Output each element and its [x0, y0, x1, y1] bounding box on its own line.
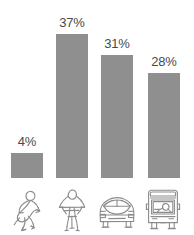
car-icon [96, 191, 138, 233]
bar-value-label-bus: 28% [151, 55, 176, 68]
category-icon-row [0, 180, 194, 235]
category-icon-cell-walking [7, 183, 47, 233]
plot-area: 4% 37% 31% 28% [0, 0, 194, 178]
bar-chart: 4% 37% 31% 28% [0, 0, 194, 235]
bar-value-label-walking: 4% [18, 135, 36, 148]
bus-icon [143, 187, 183, 233]
bicycle-icon [54, 187, 90, 233]
bar-value-label-car: 31% [104, 37, 129, 50]
bar-car[interactable] [101, 55, 133, 178]
bar-cycling[interactable] [56, 34, 88, 178]
bar-group-cycling: 37% [56, 0, 88, 178]
category-icon-cell-bus [143, 183, 183, 233]
bar-walking[interactable] [11, 153, 43, 178]
category-icon-cell-cycling [52, 183, 92, 233]
bar-group-bus: 28% [148, 0, 180, 178]
bar-group-walking: 4% [11, 0, 43, 178]
bar-group-car: 31% [101, 0, 133, 178]
bar-bus[interactable] [148, 73, 180, 178]
bar-value-label-cycling: 37% [59, 16, 84, 29]
category-icon-cell-car [97, 183, 137, 233]
pedestrian-icon [9, 187, 45, 233]
